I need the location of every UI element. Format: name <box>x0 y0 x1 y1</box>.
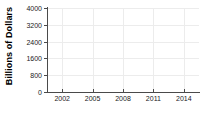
y-axis-tick-mark <box>44 58 47 59</box>
x-axis-tick-labels: 20022005200820112014 <box>0 95 202 109</box>
gridline-vertical <box>153 8 154 92</box>
y-axis-tick-label: 3200 <box>26 21 42 28</box>
y-axis-spine <box>47 7 48 92</box>
x-axis-tick-mark <box>184 89 185 92</box>
x-axis-tick-label: 2014 <box>176 95 192 102</box>
x-axis-tick-label: 2008 <box>115 95 131 102</box>
gridline-vertical <box>93 8 94 92</box>
y-axis-tick-label: 4000 <box>26 5 42 12</box>
y-axis-tick-label: 1600 <box>26 55 42 62</box>
x-axis-tick-mark <box>93 89 94 92</box>
y-axis-tick-mark <box>44 92 47 93</box>
y-axis-tick-label: 800 <box>30 72 42 79</box>
y-axis-tick-mark <box>44 8 47 9</box>
x-axis-tick-mark <box>62 89 63 92</box>
x-axis-tick-label: 2005 <box>85 95 101 102</box>
x-axis-tick-label: 2002 <box>54 95 70 102</box>
x-axis-tick-mark <box>123 89 124 92</box>
y-axis-tick-labels: 08001600240032004000 <box>14 8 44 92</box>
x-axis-tick-mark <box>153 89 154 92</box>
plot-area <box>47 8 199 92</box>
y-axis-title-text: Billions of Dollars <box>4 7 14 85</box>
y-axis-tick-mark <box>44 42 47 43</box>
gridline-vertical <box>184 8 185 92</box>
y-axis-tick-label: 2400 <box>26 38 42 45</box>
gridline-vertical <box>62 8 63 92</box>
x-axis-spine <box>47 92 200 93</box>
x-axis-tick-label: 2011 <box>146 95 161 102</box>
chart-figure: Billions of Dollars 08001600240032004000… <box>0 0 202 117</box>
y-axis-tick-mark <box>44 75 47 76</box>
y-axis-tick-mark <box>44 25 47 26</box>
gridline-vertical <box>123 8 124 92</box>
